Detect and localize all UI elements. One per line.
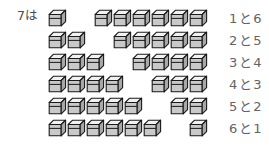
cube-icon xyxy=(189,31,208,49)
cube-icon xyxy=(170,9,189,27)
rows-container: 1と62と53と44と35と26と1 xyxy=(0,8,269,140)
cube-icon xyxy=(189,97,208,115)
cube-icon xyxy=(48,97,67,115)
cube-icon xyxy=(170,97,189,115)
cube-group-left xyxy=(48,97,143,115)
pair-label: 6と1 xyxy=(229,120,263,138)
cube-icon xyxy=(48,31,67,49)
cube-icon xyxy=(48,75,67,93)
cube-icon xyxy=(132,9,151,27)
cube-icon xyxy=(67,97,86,115)
cube-icon xyxy=(143,119,162,137)
decomposition-row: 1と6 xyxy=(0,8,269,30)
cube-icon xyxy=(189,119,208,137)
cube-icon xyxy=(48,9,67,27)
cube-icon xyxy=(151,53,170,71)
cube-group-right xyxy=(132,53,208,71)
cube-icon xyxy=(151,9,170,27)
decomposition-row: 6と1 xyxy=(0,118,269,140)
cube-icon xyxy=(189,9,208,27)
cube-icon xyxy=(189,75,208,93)
cube-icon xyxy=(170,75,189,93)
pair-label: 3と4 xyxy=(229,54,263,72)
cube-icon xyxy=(113,9,132,27)
cube-group-left xyxy=(48,31,86,49)
cube-group-right xyxy=(170,97,208,115)
cube-icon xyxy=(105,75,124,93)
cube-icon xyxy=(113,31,132,49)
cube-icon xyxy=(67,53,86,71)
cube-group-left xyxy=(48,75,124,93)
pair-label: 2と5 xyxy=(229,32,263,50)
cube-icon xyxy=(189,53,208,71)
cube-group-right xyxy=(94,9,208,27)
pair-label: 4と3 xyxy=(229,76,263,94)
cube-icon xyxy=(105,119,124,137)
decomposition-row: 3と4 xyxy=(0,52,269,74)
cube-icon xyxy=(94,9,113,27)
cube-icon xyxy=(86,75,105,93)
cube-icon xyxy=(132,31,151,49)
cube-icon xyxy=(67,119,86,137)
cube-icon xyxy=(67,75,86,93)
cube-group-right xyxy=(189,119,208,137)
cube-group-left xyxy=(48,119,162,137)
cube-icon xyxy=(124,119,143,137)
cube-group-right xyxy=(113,31,208,49)
cube-icon xyxy=(105,97,124,115)
pair-label: 1と6 xyxy=(229,10,263,28)
cube-group-left xyxy=(48,53,105,71)
cube-icon xyxy=(86,53,105,71)
cube-icon xyxy=(151,75,170,93)
cube-icon xyxy=(86,97,105,115)
decomposition-figure: 7は 1と62と53と44と35と26と1 xyxy=(0,0,269,151)
pair-label: 5と2 xyxy=(229,98,263,116)
decomposition-row: 2と5 xyxy=(0,30,269,52)
cube-icon xyxy=(67,31,86,49)
cube-icon xyxy=(151,31,170,49)
decomposition-row: 5と2 xyxy=(0,96,269,118)
cube-icon xyxy=(48,53,67,71)
cube-icon xyxy=(124,97,143,115)
cube-icon xyxy=(170,31,189,49)
cube-icon xyxy=(86,119,105,137)
cube-group-right xyxy=(151,75,208,93)
cube-group-left xyxy=(48,9,67,27)
cube-icon xyxy=(132,53,151,71)
cube-icon xyxy=(48,119,67,137)
cube-icon xyxy=(170,53,189,71)
decomposition-row: 4と3 xyxy=(0,74,269,96)
